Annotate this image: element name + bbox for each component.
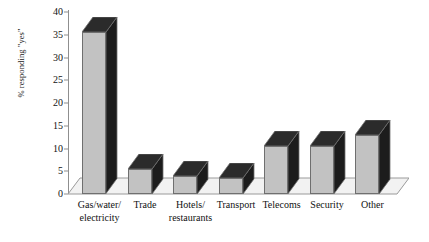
bar-front-face: [264, 146, 288, 194]
y-tick-label: 25: [53, 75, 63, 85]
bar-front-face: [355, 135, 379, 194]
bar[interactable]: [173, 161, 208, 194]
y-tick-label: 35: [53, 30, 63, 40]
bar-top-face: [82, 17, 118, 33]
bar-front-face: [219, 178, 243, 194]
x-axis-label-line: Other: [340, 199, 406, 212]
x-axis-labels: Gas/water/electricityTradeHotels/restaur…: [68, 199, 409, 242]
bar-side-face: [106, 17, 118, 194]
bar[interactable]: [264, 131, 299, 194]
bar-front-face: [82, 32, 106, 194]
bars-layer: [68, 12, 409, 194]
bar[interactable]: [310, 131, 345, 194]
bar-front-face: [128, 169, 152, 194]
bar-front-face: [173, 176, 197, 194]
y-tick-label: 15: [53, 121, 63, 131]
bar[interactable]: [128, 154, 163, 194]
bar-top-face: [173, 161, 209, 177]
bar-chart: % responding "yes" 0510152025303540 Gas/…: [0, 0, 429, 242]
bar-top-face: [264, 131, 300, 147]
y-tick-label: 20: [53, 98, 63, 108]
y-tick-label: 0: [58, 189, 63, 199]
bar[interactable]: [355, 120, 390, 194]
bar[interactable]: [82, 17, 117, 194]
y-tick-label: 5: [58, 166, 63, 176]
y-tick-label: 10: [53, 144, 63, 154]
y-tick-label: 40: [53, 7, 63, 17]
x-axis-label-line: restaurants: [158, 212, 224, 225]
plot-area: 0510152025303540: [68, 12, 409, 194]
x-axis-label-line: electricity: [67, 212, 133, 225]
bar-front-face: [310, 146, 334, 194]
y-tick-label: 30: [53, 53, 63, 63]
y-axis-title: % responding "yes": [16, 0, 26, 128]
bar-top-face: [310, 131, 346, 147]
bar-top-face: [128, 154, 164, 170]
bar[interactable]: [219, 163, 254, 194]
bar-top-face: [219, 163, 255, 179]
bar-top-face: [355, 120, 391, 136]
x-axis-label: Other: [340, 199, 406, 212]
